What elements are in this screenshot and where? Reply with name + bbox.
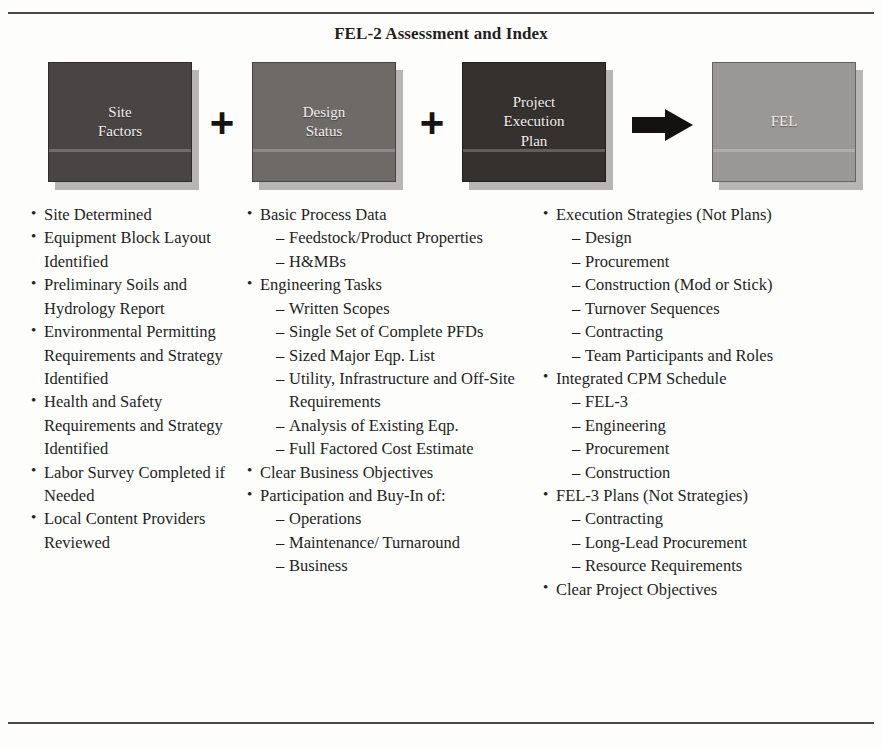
sub-list-item: Business <box>276 554 536 577</box>
sub-list-item: Utility, Infrastructure and Off-Site Req… <box>276 367 536 414</box>
top-divider-rule <box>8 12 874 14</box>
bottom-divider-rule <box>8 722 874 724</box>
list-item-label: Local Content Providers Reviewed <box>44 507 245 554</box>
sub-bullet-list: ContractingLong-Lead ProcurementResource… <box>556 507 860 577</box>
list-item: Environmental Permitting Requirements an… <box>30 320 245 390</box>
column-design-status: Basic Process DataFeedstock/Product Prop… <box>246 203 536 578</box>
list-item: Basic Process DataFeedstock/Product Prop… <box>246 203 536 273</box>
list-item-label: Engineering Tasks <box>260 273 536 296</box>
list-item: Clear Business Objectives <box>246 461 536 484</box>
list-item: Site Determined <box>30 203 245 226</box>
diagram-node-label: SiteFactors <box>92 103 148 141</box>
list-item: Local Content Providers Reviewed <box>30 507 245 554</box>
diagram-node-site-factors: SiteFactors <box>48 62 192 182</box>
column-site-factors: Site DeterminedEquipment Block Layout Id… <box>30 203 245 554</box>
list-item-label: Health and Safety Requirements and Strat… <box>44 390 245 460</box>
sub-list-item: Turnover Sequences <box>572 297 860 320</box>
sub-list-item: Analysis of Existing Eqp. <box>276 414 536 437</box>
list-item-label: Labor Survey Completed if Needed <box>44 461 245 508</box>
diagram-node-project-execution-plan: ProjectExecutionPlan <box>462 62 606 182</box>
list-item: Labor Survey Completed if Needed <box>30 461 245 508</box>
arrow-right-operator <box>632 108 694 142</box>
bullet-list: Basic Process DataFeedstock/Product Prop… <box>246 203 536 578</box>
list-item: Participation and Buy-In of:OperationsMa… <box>246 484 536 578</box>
sub-list-item: Procurement <box>572 250 860 273</box>
requirement-columns: Site DeterminedEquipment Block Layout Id… <box>0 203 882 713</box>
bullet-list: Site DeterminedEquipment Block Layout Id… <box>30 203 245 554</box>
list-item: Preliminary Soils and Hydrology Report <box>30 273 245 320</box>
list-item-label: Equipment Block Layout Identified <box>44 226 245 273</box>
list-item-label: Basic Process Data <box>260 203 536 226</box>
column-project-execution-plan: Execution Strategies (Not Plans)DesignPr… <box>542 203 860 601</box>
list-item: Equipment Block Layout Identified <box>30 226 245 273</box>
sub-list-item: Feedstock/Product Properties <box>276 226 536 249</box>
sub-list-item: Full Factored Cost Estimate <box>276 437 536 460</box>
plus-operator-2: + <box>414 106 450 142</box>
plus-icon: + <box>414 106 450 142</box>
sub-list-item: Design <box>572 226 860 249</box>
list-item-label: Execution Strategies (Not Plans) <box>556 203 860 226</box>
diagram-node-row: SiteFactors + DesignStatus + ProjectExec… <box>0 62 882 197</box>
page-title: FEL-2 Assessment and Index <box>0 24 882 44</box>
diagram-node-label: FEL <box>765 112 804 131</box>
list-item-label: Site Determined <box>44 203 245 226</box>
sub-list-item: Team Participants and Roles <box>572 344 860 367</box>
diagram-node-label: DesignStatus <box>297 103 352 141</box>
sub-list-item: Procurement <box>572 437 860 460</box>
sub-bullet-list: DesignProcurementConstruction (Mod or St… <box>556 226 860 367</box>
sub-list-item: H&MBs <box>276 250 536 273</box>
sub-bullet-list: OperationsMaintenance/ TurnaroundBusines… <box>260 507 536 577</box>
diagram-node-fel: FEL <box>712 62 856 182</box>
arrow-right-icon <box>632 108 694 142</box>
sub-list-item: Contracting <box>572 507 860 530</box>
list-item-label: Preliminary Soils and Hydrology Report <box>44 273 245 320</box>
plus-icon: + <box>204 106 240 142</box>
sub-list-item: Maintenance/ Turnaround <box>276 531 536 554</box>
diagram-node-label: ProjectExecutionPlan <box>498 93 571 151</box>
plus-operator-1: + <box>204 106 240 142</box>
list-item: Health and Safety Requirements and Strat… <box>30 390 245 460</box>
sub-list-item: Resource Requirements <box>572 554 860 577</box>
list-item-label: Clear Project Objectives <box>556 578 860 601</box>
sub-list-item: Engineering <box>572 414 860 437</box>
sub-list-item: Written Scopes <box>276 297 536 320</box>
sub-list-item: Contracting <box>572 320 860 343</box>
diagram-node-design-status: DesignStatus <box>252 62 396 182</box>
sub-bullet-list: Written ScopesSingle Set of Complete PFD… <box>260 297 536 461</box>
list-item-label: Clear Business Objectives <box>260 461 536 484</box>
list-item-label: Environmental Permitting Requirements an… <box>44 320 245 390</box>
sub-list-item: Long-Lead Procurement <box>572 531 860 554</box>
sub-list-item: FEL-3 <box>572 390 860 413</box>
sub-list-item: Construction <box>572 461 860 484</box>
sub-list-item: Single Set of Complete PFDs <box>276 320 536 343</box>
sub-bullet-list: FEL-3EngineeringProcurementConstruction <box>556 390 860 484</box>
sub-list-item: Sized Major Eqp. List <box>276 344 536 367</box>
list-item: Clear Project Objectives <box>542 578 860 601</box>
list-item: Engineering TasksWritten ScopesSingle Se… <box>246 273 536 460</box>
bullet-list: Execution Strategies (Not Plans)DesignPr… <box>542 203 860 601</box>
sub-list-item: Construction (Mod or Stick) <box>572 273 860 296</box>
list-item-label: Integrated CPM Schedule <box>556 367 860 390</box>
sub-bullet-list: Feedstock/Product PropertiesH&MBs <box>260 226 536 273</box>
sub-list-item: Operations <box>276 507 536 530</box>
list-item-label: FEL-3 Plans (Not Strategies) <box>556 484 860 507</box>
list-item: Execution Strategies (Not Plans)DesignPr… <box>542 203 860 367</box>
list-item: FEL-3 Plans (Not Strategies)ContractingL… <box>542 484 860 578</box>
list-item-label: Participation and Buy-In of: <box>260 484 536 507</box>
list-item: Integrated CPM ScheduleFEL-3EngineeringP… <box>542 367 860 484</box>
